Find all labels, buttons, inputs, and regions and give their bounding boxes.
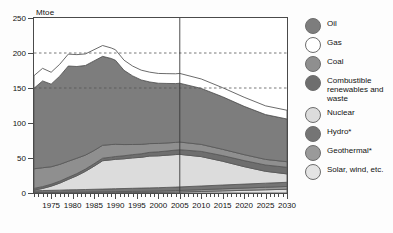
- x-axis-major-tick: [287, 194, 288, 199]
- y-axis-unit-label: Mtoe: [36, 8, 54, 17]
- legend-swatch-circle-icon: [305, 75, 321, 91]
- x-axis-minor-tick: [274, 194, 275, 197]
- plot-area: [33, 17, 288, 194]
- x-axis-minor-tick: [133, 194, 134, 197]
- x-axis-minor-tick: [210, 194, 211, 197]
- x-axis-major-tick: [180, 194, 181, 199]
- legend-item[interactable]: Nuclear: [305, 107, 393, 123]
- x-axis-minor-tick: [248, 194, 249, 197]
- x-axis-minor-tick: [47, 194, 48, 197]
- x-axis-minor-tick: [278, 194, 279, 197]
- x-axis-minor-tick: [218, 194, 219, 197]
- x-axis-minor-tick: [55, 194, 56, 197]
- x-axis-minor-tick: [81, 194, 82, 197]
- legend-item[interactable]: Geothermal*: [305, 145, 393, 161]
- legend-item[interactable]: Combustible renewables and waste: [305, 75, 393, 104]
- legend-item-label: Geothermal*: [327, 145, 372, 155]
- x-axis-major-tick: [223, 194, 224, 199]
- x-axis-minor-tick: [270, 194, 271, 197]
- x-axis-tick-label: 2020: [235, 201, 253, 210]
- x-axis-major-tick: [201, 194, 202, 199]
- stacked-area-svg: [34, 18, 287, 193]
- x-axis-major-tick: [244, 194, 245, 199]
- x-axis-minor-tick: [227, 194, 228, 197]
- x-axis-minor-tick: [261, 194, 262, 197]
- chart-figure: Mtoe 050100150200250 1975198019851990199…: [0, 0, 393, 233]
- legend-item-label: Combustible renewables and waste: [327, 75, 393, 104]
- x-axis-minor-tick: [184, 194, 185, 197]
- legend-swatch-circle-icon: [305, 145, 321, 161]
- x-axis-minor-tick: [188, 194, 189, 197]
- legend-swatch-circle-icon: [305, 56, 321, 72]
- y-axis-tick-label: 100: [0, 119, 26, 128]
- x-axis-tick-label: 2000: [149, 201, 167, 210]
- x-axis-tick-label: 1980: [64, 201, 82, 210]
- x-axis-minor-tick: [64, 194, 65, 197]
- legend-item-label: Gas: [327, 37, 342, 47]
- x-axis-tick-label: 2025: [257, 201, 275, 210]
- x-axis-minor-tick: [85, 194, 86, 197]
- x-axis-major-tick: [73, 194, 74, 199]
- x-axis-major-tick: [137, 194, 138, 199]
- x-axis-minor-tick: [154, 194, 155, 197]
- x-axis-tick-label: 1995: [128, 201, 146, 210]
- x-axis-minor-tick: [193, 194, 194, 197]
- x-axis-minor-tick: [60, 194, 61, 197]
- legend-swatch-circle-icon: [305, 107, 321, 123]
- legend-swatch-circle-icon: [305, 164, 321, 180]
- legend-item[interactable]: Coal: [305, 56, 393, 72]
- x-axis-minor-tick: [231, 194, 232, 197]
- x-axis-minor-tick: [257, 194, 258, 197]
- y-axis-tick-label: 250: [0, 14, 26, 23]
- x-axis-minor-tick: [240, 194, 241, 197]
- x-axis-minor-tick: [68, 194, 69, 197]
- x-axis-minor-tick: [124, 194, 125, 197]
- x-axis-minor-tick: [120, 194, 121, 197]
- x-axis-minor-tick: [206, 194, 207, 197]
- x-axis-tick-label: 1990: [107, 201, 125, 210]
- x-axis-minor-tick: [236, 194, 237, 197]
- x-axis-tick-label: 2005: [171, 201, 189, 210]
- x-axis-minor-tick: [98, 194, 99, 197]
- x-axis-minor-tick: [176, 194, 177, 197]
- chart-legend: OilGasCoalCombustible renewables and was…: [305, 18, 393, 183]
- legend-item-label: Nuclear: [327, 107, 355, 117]
- legend-item[interactable]: Gas: [305, 37, 393, 53]
- x-axis-major-tick: [266, 194, 267, 199]
- plot-container: Mtoe 050100150200250 1975198019851990199…: [0, 0, 300, 233]
- x-axis-major-tick: [51, 194, 52, 199]
- x-axis-minor-tick: [38, 194, 39, 197]
- x-axis-minor-tick: [253, 194, 254, 197]
- x-axis-tick-label: 1975: [42, 201, 60, 210]
- x-axis-minor-tick: [150, 194, 151, 197]
- x-axis-minor-tick: [283, 194, 284, 197]
- legend-item-label: Hydro*: [327, 126, 351, 136]
- x-axis-major-tick: [158, 194, 159, 199]
- x-axis-minor-tick: [90, 194, 91, 197]
- x-axis-minor-tick: [167, 194, 168, 197]
- x-axis-minor-tick: [77, 194, 78, 197]
- y-axis-tick-label: 50: [0, 154, 26, 163]
- x-axis-tick-label: 2015: [214, 201, 232, 210]
- x-axis-tick-label: 2030: [278, 201, 296, 210]
- x-axis-minor-tick: [128, 194, 129, 197]
- legend-item[interactable]: Hydro*: [305, 126, 393, 142]
- legend-item[interactable]: Oil: [305, 18, 393, 34]
- x-axis-minor-tick: [43, 194, 44, 197]
- x-axis-major-tick: [115, 194, 116, 199]
- legend-swatch-circle-icon: [305, 37, 321, 53]
- legend-item-label: Solar, wind, etc.: [327, 164, 383, 174]
- y-axis-tick-label: 150: [0, 84, 26, 93]
- y-axis-tick-label: 0: [0, 189, 26, 198]
- legend-item-label: Oil: [327, 18, 337, 28]
- legend-swatch-circle-icon: [305, 126, 321, 142]
- x-axis-minor-tick: [34, 194, 35, 197]
- x-axis-minor-tick: [197, 194, 198, 197]
- x-axis-minor-tick: [111, 194, 112, 197]
- x-axis-ticks: [33, 194, 289, 200]
- x-axis-major-tick: [94, 194, 95, 199]
- legend-item[interactable]: Solar, wind, etc.: [305, 164, 393, 180]
- x-axis-minor-tick: [141, 194, 142, 197]
- x-axis-tick-label: 1985: [85, 201, 103, 210]
- legend-swatch-circle-icon: [305, 18, 321, 34]
